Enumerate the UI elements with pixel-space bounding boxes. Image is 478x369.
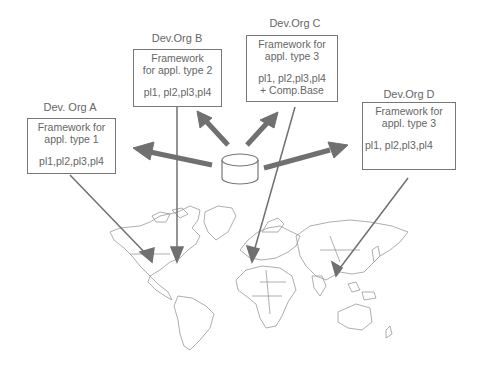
arrowhead-d [332,262,342,276]
org-a-framework: Framework for [30,121,113,133]
org-b-box: Framework for appl. type 2 pl1, pl2,pl3,… [133,49,222,107]
org-c-extra: + Comp.Base [249,84,335,96]
connector-lines [70,107,408,276]
org-d-products: pl1, pl2,pl3,pl4 [365,139,453,151]
org-c-products: pl1, pl2,pl3,pl4 [249,72,335,84]
org-b-framework: Framework [136,52,219,64]
org-a-box: Framework for appl. type 1 pl1,pl2,pl3,p… [27,118,116,174]
org-d-label: Dev.Org D [372,88,446,100]
org-c-label: Dev.Org C [258,17,332,29]
org-d-box: Framework for appl. type 3 pl1, pl2,pl3,… [362,102,456,170]
org-c-box: Framework for appl. type 3 pl1, pl2,pl3,… [246,35,338,102]
org-b-type: for appl. type 2 [136,64,219,76]
org-c-framework: Framework for [249,38,335,50]
org-b-products: pl1, pl2,pl3,pl4 [136,86,219,98]
database-cylinder-icon [222,154,258,184]
org-a-type: appl. type 1 [30,133,113,145]
org-a-label: Dev. Org A [40,101,100,113]
org-d-framework: Framework for [365,105,453,117]
org-a-products: pl1,pl2,pl3,pl4 [30,155,113,167]
org-d-type: appl. type 3 [365,117,453,129]
org-c-type: appl. type 3 [249,50,335,62]
arrowhead-b [171,247,183,262]
org-b-label: Dev.Org B [140,32,214,44]
diagram-canvas [0,0,478,369]
world-map [110,206,408,350]
